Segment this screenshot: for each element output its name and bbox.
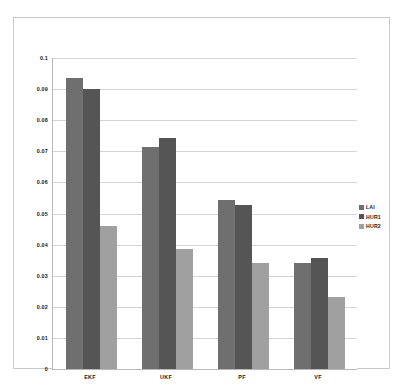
x-axis-tick-label: PF xyxy=(238,374,246,380)
legend-item[interactable]: LAI xyxy=(359,204,381,210)
y-axis-tick-labels: 00.010.020.030.040.050.060.070.080.090.1 xyxy=(14,58,48,370)
legend-swatch-icon xyxy=(359,224,364,229)
y-axis-tick-label: 0.06 xyxy=(37,179,48,185)
legend-label: HUR1 xyxy=(366,214,381,220)
y-axis-tick-label: 0.07 xyxy=(37,148,48,154)
chart-frame: 00.010.020.030.040.050.060.070.080.090.1… xyxy=(13,17,390,369)
bar[interactable] xyxy=(294,263,311,369)
legend-label: LAI xyxy=(366,204,375,210)
x-axis-tick-label: VF xyxy=(314,374,322,380)
legend-item[interactable]: HUR2 xyxy=(359,223,381,229)
y-axis-tick-label: 0.1 xyxy=(40,55,48,61)
y-axis-tick-label: 0.05 xyxy=(37,211,48,217)
bar[interactable] xyxy=(83,89,100,369)
bar[interactable] xyxy=(100,226,117,369)
bar[interactable] xyxy=(218,200,235,369)
bar-group xyxy=(53,58,129,369)
bar[interactable] xyxy=(328,297,345,369)
chart-screenshot: 00.010.020.030.040.050.060.070.080.090.1… xyxy=(0,0,402,388)
bar[interactable] xyxy=(311,258,328,369)
bar[interactable] xyxy=(235,205,252,369)
y-axis-tick-label: 0.04 xyxy=(37,242,48,248)
plot-area xyxy=(52,58,357,370)
y-axis-tick-label: 0.02 xyxy=(37,304,48,310)
legend-swatch-icon xyxy=(359,214,364,219)
y-axis-tick-label: 0.01 xyxy=(37,335,48,341)
bar[interactable] xyxy=(142,147,159,369)
legend-item[interactable]: HUR1 xyxy=(359,214,381,220)
y-axis-tick-label: 0.09 xyxy=(37,86,48,92)
chart-legend: LAIHUR1HUR2 xyxy=(359,204,381,229)
y-axis-tick-label: 0.08 xyxy=(37,117,48,123)
y-axis-tick-label: 0.03 xyxy=(37,273,48,279)
bar-group xyxy=(129,58,205,369)
x-axis-tick-label: UKF xyxy=(160,374,172,380)
bar-group xyxy=(205,58,281,369)
legend-swatch-icon xyxy=(359,205,364,210)
x-axis-tick-label: EKF xyxy=(84,374,96,380)
legend-label: HUR2 xyxy=(366,223,381,229)
bar[interactable] xyxy=(176,249,193,369)
bar[interactable] xyxy=(159,138,176,369)
y-axis-tick-label: 0 xyxy=(45,366,48,372)
bar[interactable] xyxy=(252,263,269,369)
bar-group xyxy=(281,58,357,369)
bar[interactable] xyxy=(66,78,83,369)
